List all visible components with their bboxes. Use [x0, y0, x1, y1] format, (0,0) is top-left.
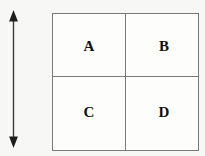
grid-cell-a: A: [53, 14, 126, 77]
grid-cell-d-label: D: [128, 105, 200, 120]
grid-cell-b-label: B: [128, 39, 200, 54]
grid-cell-d: D: [126, 77, 199, 151]
grid-cell-c: C: [53, 77, 126, 151]
double-headed-vertical-arrow-icon: [4, 8, 24, 150]
grid-cell-b: B: [126, 14, 199, 77]
grid-cell-c-label: C: [53, 105, 125, 120]
arrow-head-bottom: [9, 137, 18, 149]
grid-row-bottom: C D: [53, 77, 199, 151]
quadrant-grid: A B C D: [52, 13, 199, 151]
grid-row-top: A B: [53, 14, 199, 77]
vertical-extent-arrow: [4, 8, 24, 150]
grid-cell-a-label: A: [53, 39, 125, 54]
arrow-head-top: [9, 10, 18, 22]
figure-canvas: A B C D: [0, 0, 205, 156]
